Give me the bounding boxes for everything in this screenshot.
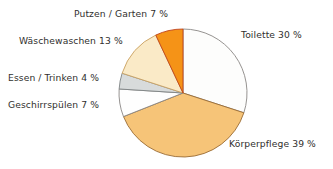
pie-label-waeschewaschen: Wäschewaschen 13 % [19,35,123,46]
pie-label-putzen-garten: Putzen / Garten 7 % [74,8,168,19]
pie-slice-group [119,29,247,157]
pie-label-essen-trinken: Essen / Trinken 4 % [8,72,99,83]
pie-label-koerperpflege: Körperpflege 39 % [229,138,316,149]
pie-label-toilette: Toilette 30 % [241,29,302,40]
pie-label-geschirrspuelen: Geschirrspülen 7 % [8,99,99,110]
pie-chart: Putzen / Garten 7 % Wäschewaschen 13 % E… [0,0,333,169]
